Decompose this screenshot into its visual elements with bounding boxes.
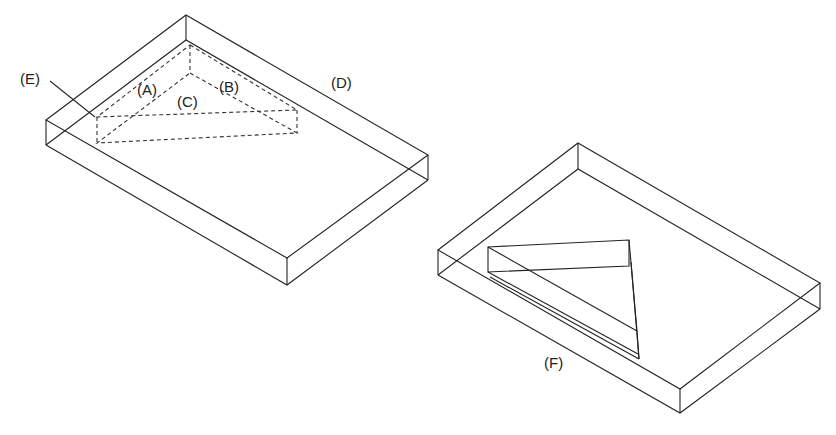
left-slab-inner-back-edges — [46, 40, 428, 180]
prism-lower-edge-1 — [488, 272, 638, 354]
visible-triangular-prism — [488, 240, 639, 359]
right-slab-inner-back-edges — [438, 169, 820, 309]
prism-end-face — [488, 240, 629, 272]
label-f: (F) — [544, 354, 563, 371]
prism-upper-diagonal — [488, 247, 637, 331]
right-slab-bottom-edges — [438, 275, 820, 413]
label-a: (A) — [137, 81, 157, 98]
label-e: (E) — [20, 70, 40, 87]
label-b: (B) — [219, 78, 239, 95]
label-c: (C) — [177, 93, 198, 110]
right-slab — [438, 143, 820, 413]
left-slab-bottom-edges — [46, 145, 428, 285]
diagram-canvas: (E) (A) (B) (C) (D) (F) — [0, 0, 836, 435]
label-d: (D) — [331, 74, 352, 91]
left-slab — [46, 15, 428, 285]
